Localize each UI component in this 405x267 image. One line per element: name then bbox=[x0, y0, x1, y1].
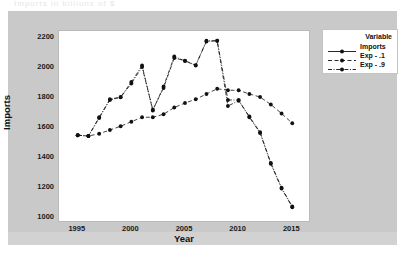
series-line bbox=[78, 41, 293, 207]
y-tick-label: 2000 bbox=[37, 62, 54, 71]
data-point-marker bbox=[119, 124, 123, 128]
x-tick-label: 2005 bbox=[176, 224, 193, 233]
x-tick-label: 2015 bbox=[283, 224, 300, 233]
x-tick-label: 2000 bbox=[122, 224, 139, 233]
data-point-marker bbox=[87, 134, 91, 138]
data-point-marker bbox=[290, 205, 294, 209]
legend-item: Imports bbox=[327, 42, 393, 51]
data-point-marker bbox=[119, 95, 123, 99]
legend-line-sample-icon bbox=[327, 60, 357, 69]
data-point-marker bbox=[108, 128, 112, 132]
data-point-marker bbox=[237, 88, 241, 92]
legend-line-sample-icon bbox=[327, 42, 357, 51]
data-point-marker bbox=[269, 161, 273, 165]
legend-item: Exp - .1 bbox=[327, 51, 393, 60]
data-point-marker bbox=[183, 101, 187, 105]
data-point-marker bbox=[151, 115, 155, 119]
data-point-marker bbox=[162, 86, 166, 90]
data-point-marker bbox=[129, 82, 133, 86]
data-point-marker bbox=[205, 92, 209, 96]
data-point-marker bbox=[215, 87, 219, 91]
data-point-marker bbox=[140, 115, 144, 119]
legend-line-sample-icon bbox=[327, 51, 357, 60]
legend-item-label: Imports bbox=[360, 43, 386, 50]
y-tick-label: 2200 bbox=[37, 32, 54, 41]
data-point-marker bbox=[151, 108, 155, 112]
data-point-marker bbox=[258, 95, 262, 99]
y-axis-ticks: 1000120014001600180020002200 bbox=[8, 22, 54, 232]
data-point-marker bbox=[237, 99, 241, 103]
data-point-marker bbox=[280, 186, 284, 190]
data-point-marker bbox=[247, 115, 251, 119]
data-point-marker bbox=[194, 97, 198, 101]
legend-rows: ImportsExp - .1Exp - .9 bbox=[327, 42, 393, 69]
series-line bbox=[78, 41, 293, 208]
data-point-marker bbox=[280, 112, 284, 116]
data-point-marker bbox=[194, 63, 198, 67]
x-tick-label: 2010 bbox=[229, 224, 246, 233]
data-point-marker bbox=[258, 130, 262, 134]
y-tick-label: 1600 bbox=[37, 122, 54, 131]
legend-title: Variable bbox=[327, 33, 393, 40]
data-point-marker bbox=[172, 56, 176, 60]
data-point-marker bbox=[97, 116, 101, 120]
x-axis-ticks: 19952000200520102015 bbox=[8, 224, 397, 236]
data-point-marker bbox=[290, 121, 294, 125]
series-canvas bbox=[59, 31, 311, 223]
data-point-marker bbox=[226, 88, 230, 92]
chart-page: Imports in billions of $ Imports Year 10… bbox=[0, 0, 405, 267]
data-point-marker bbox=[129, 120, 133, 124]
data-point-marker bbox=[226, 104, 230, 108]
data-point-marker bbox=[205, 40, 209, 44]
data-point-marker bbox=[140, 65, 144, 69]
data-point-marker bbox=[97, 132, 101, 136]
data-point-marker bbox=[172, 106, 176, 110]
legend-item-label: Exp - .1 bbox=[360, 52, 385, 59]
plot-area bbox=[58, 30, 310, 222]
legend: Variable ImportsExp - .1Exp - .9 bbox=[322, 29, 398, 74]
legend-item-label: Exp - .9 bbox=[360, 61, 385, 68]
y-tick-label: 1800 bbox=[37, 92, 54, 101]
data-point-marker bbox=[108, 98, 112, 102]
y-tick-label: 1000 bbox=[37, 212, 54, 221]
data-point-marker bbox=[162, 112, 166, 116]
cropped-caption-fragment: Imports in billions of $ bbox=[14, 0, 344, 11]
y-tick-label: 1200 bbox=[37, 182, 54, 191]
data-point-marker bbox=[247, 92, 251, 96]
data-point-marker bbox=[76, 133, 80, 137]
data-point-marker bbox=[183, 59, 187, 63]
data-point-marker bbox=[215, 39, 219, 43]
y-tick-label: 1400 bbox=[37, 152, 54, 161]
x-tick-label: 1995 bbox=[68, 224, 85, 233]
legend-item: Exp - .9 bbox=[327, 60, 393, 69]
data-point-marker bbox=[269, 103, 273, 107]
figure-panel: Imports Year 100012001400160018002000220… bbox=[8, 11, 397, 245]
